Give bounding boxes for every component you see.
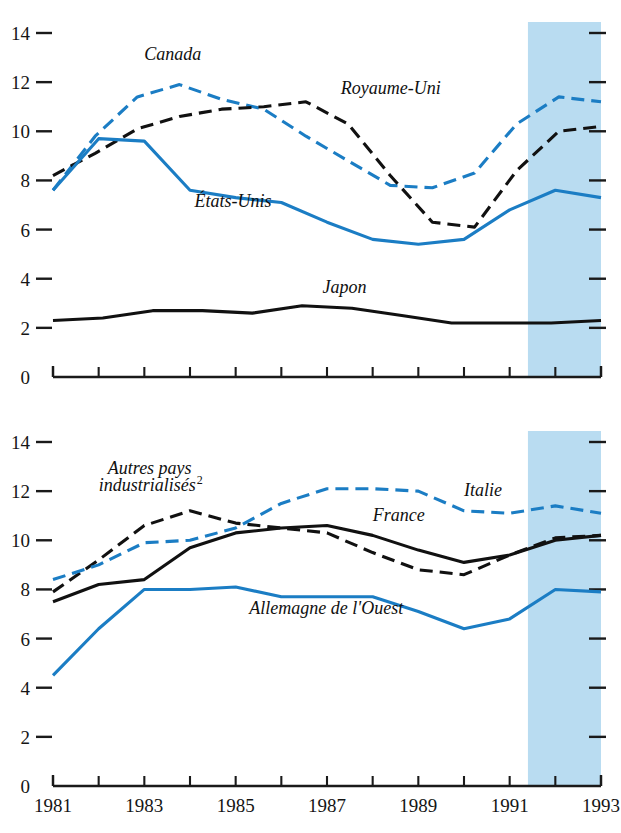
y-axis-label-4: 4: [21, 269, 31, 290]
panel-bottom: 02468101214Autres paysindustrialisés2Ita…: [11, 431, 606, 797]
series-line-france: [53, 526, 601, 602]
x-axis-label-1989: 1989: [399, 795, 437, 816]
y-axis-label-10: 10: [11, 530, 30, 551]
x-axis-label-1985: 1985: [217, 795, 255, 816]
x-axis-label-1991: 1991: [491, 795, 529, 816]
x-axis-label-1983: 1983: [125, 795, 163, 816]
series-line-tats-unis: [53, 139, 601, 245]
series-annotation-canada: Canada: [144, 44, 201, 64]
series-line-japon: [53, 306, 601, 323]
figure-root: 02468101214CanadaRoyaume-UniÉtats-UnisJa…: [0, 0, 621, 833]
series-annotation-superscript: 2: [197, 473, 203, 487]
y-axis-label-14: 14: [11, 23, 31, 44]
y-axis-label-10: 10: [11, 121, 30, 142]
y-axis-label-0: 0: [21, 776, 31, 797]
two-panel-line-chart: 02468101214CanadaRoyaume-UniÉtats-UnisJa…: [0, 0, 621, 833]
y-axis-label-8: 8: [21, 579, 31, 600]
x-axis-label-1981: 1981: [34, 795, 72, 816]
y-axis-label-6: 6: [21, 220, 31, 241]
y-axis-label-8: 8: [21, 170, 31, 191]
x-axis-label-1987: 1987: [308, 795, 346, 816]
series-line-canada: [53, 85, 601, 191]
series-annotation-allemagne-de-l-ouest: Allemagne de l'Ouest: [248, 598, 404, 618]
series-annotation-france: France: [372, 505, 425, 525]
series-line-royaume-uni: [53, 102, 601, 227]
x-axis-label-1993: 1993: [582, 795, 620, 816]
y-axis-label-2: 2: [21, 318, 31, 339]
panel-top: 02468101214CanadaRoyaume-UniÉtats-UnisJa…: [11, 22, 606, 388]
y-axis-label-12: 12: [11, 72, 30, 93]
series-annotation-italie: Italie: [463, 480, 502, 500]
forecast-shaded-band: [528, 431, 601, 786]
y-axis-label-0: 0: [21, 367, 31, 388]
y-axis-label-2: 2: [21, 727, 31, 748]
series-annotation-industrialisés: industrialisés: [99, 475, 196, 495]
y-axis-label-14: 14: [11, 432, 31, 453]
series-annotation-royaume-uni: Royaume-Uni: [340, 78, 441, 98]
series-annotation-états-unis: États-Unis: [194, 190, 272, 211]
series-annotation-japon: Japon: [322, 277, 366, 297]
y-axis-label-6: 6: [21, 629, 31, 650]
y-axis-label-12: 12: [11, 481, 30, 502]
x-axis-labels: 1981198319851987198919911993: [34, 795, 620, 816]
y-axis-label-4: 4: [21, 678, 31, 699]
